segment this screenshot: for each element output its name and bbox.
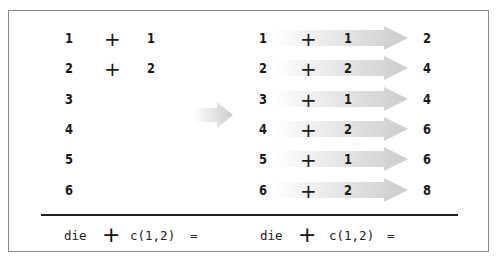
left-b-1: 1 <box>147 30 155 46</box>
left-b-2: 2 <box>147 60 155 76</box>
right-a-6: 6 <box>259 182 267 198</box>
left-a-4: 4 <box>65 121 73 137</box>
right-caption-die: die <box>260 228 283 244</box>
right-b-6: 2 <box>344 182 352 198</box>
right-b-2: 2 <box>344 60 352 76</box>
right-op-3: + <box>300 92 317 108</box>
diagram-frame <box>8 10 489 252</box>
right-caption-plus: + <box>298 227 316 243</box>
row-arrow-icon <box>272 147 408 171</box>
right-op-4: + <box>300 122 317 138</box>
right-result-2: 4 <box>423 60 431 76</box>
right-result-4: 6 <box>423 121 431 137</box>
right-caption-equals: = <box>387 228 395 244</box>
left-op-2: + <box>104 61 121 77</box>
left-a-6: 6 <box>65 182 73 198</box>
right-result-3: 4 <box>423 91 431 107</box>
transition-arrow-icon <box>193 102 233 128</box>
right-a-3: 3 <box>259 91 267 107</box>
right-op-6: + <box>300 183 317 199</box>
row-arrow-icon <box>272 117 408 141</box>
right-b-4: 2 <box>344 121 352 137</box>
right-b-3: 1 <box>344 91 352 107</box>
right-op-5: + <box>300 152 317 168</box>
row-arrow-icon <box>272 178 408 202</box>
right-a-2: 2 <box>259 60 267 76</box>
row-arrow-icon <box>272 56 408 80</box>
row-arrow-icon <box>272 26 408 50</box>
right-result-1: 2 <box>423 30 431 46</box>
row-arrow-icon <box>272 87 408 111</box>
left-caption-equals: = <box>190 228 198 244</box>
right-op-2: + <box>300 61 317 77</box>
left-caption-die: die <box>64 228 87 244</box>
left-a-3: 3 <box>65 91 73 107</box>
right-result-6: 8 <box>423 182 431 198</box>
left-caption-plus: + <box>102 227 120 243</box>
left-a-2: 2 <box>65 60 73 76</box>
left-caption-vector: c(1,2) <box>130 228 175 244</box>
left-a-1: 1 <box>65 30 73 46</box>
right-b-5: 1 <box>344 151 352 167</box>
right-a-5: 5 <box>259 151 267 167</box>
right-op-1: + <box>300 31 317 47</box>
left-a-5: 5 <box>65 151 73 167</box>
divider-line <box>41 214 458 216</box>
left-op-1: + <box>104 31 121 47</box>
right-b-1: 1 <box>344 30 352 46</box>
right-a-1: 1 <box>259 30 267 46</box>
right-a-4: 4 <box>259 121 267 137</box>
right-caption-vector: c(1,2) <box>329 228 374 244</box>
right-result-5: 6 <box>423 151 431 167</box>
